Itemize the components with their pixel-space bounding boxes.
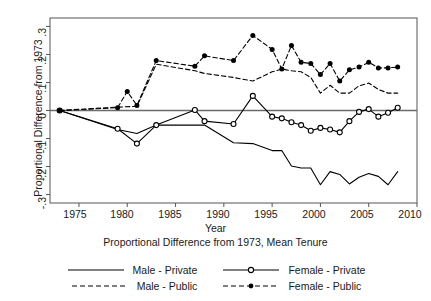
series-marker-3-20 xyxy=(376,65,381,70)
series-marker-1-3 xyxy=(154,123,159,128)
chart-figure: Proportional Difference from 1973 .3 .2 … xyxy=(0,0,431,301)
series-marker-3-0 xyxy=(57,108,62,113)
x-tick-2005: 2005 xyxy=(342,208,382,220)
series-marker-1-19 xyxy=(376,114,381,119)
series-marker-3-13 xyxy=(308,61,313,66)
legend-key-solid-open-marker xyxy=(221,264,281,276)
legend-label-female-private: Female - Private xyxy=(288,264,365,276)
series-marker-1-20 xyxy=(386,110,391,115)
legend-key-dashed-nomarker xyxy=(70,280,130,292)
series-marker-3-18 xyxy=(357,65,362,70)
series-marker-1-16 xyxy=(347,119,352,124)
series-marker-1-13 xyxy=(318,125,323,130)
legend-row-1: Male - Private Female - Private xyxy=(0,262,431,278)
legend-label-male-private: Male - Private xyxy=(133,264,198,276)
x-tick-1995: 1995 xyxy=(246,208,286,220)
x-tick-2010: 2010 xyxy=(390,208,430,220)
x-tick-1980: 1980 xyxy=(102,208,142,220)
series-marker-3-19 xyxy=(366,60,371,65)
series-marker-3-8 xyxy=(250,33,255,38)
series-marker-1-15 xyxy=(337,130,342,135)
series-marker-1-6 xyxy=(231,121,236,126)
x-tick-1985: 1985 xyxy=(150,208,190,220)
legend-label-male-public: Male - Public xyxy=(137,280,198,292)
series-marker-1-8 xyxy=(270,114,275,119)
x-tick-1990: 1990 xyxy=(198,208,238,220)
series-marker-1-18 xyxy=(366,107,371,112)
legend-item-female-public: Female - Public xyxy=(221,280,361,292)
series-marker-3-15 xyxy=(328,61,333,66)
series-marker-3-10 xyxy=(279,67,284,72)
x-axis-label: Year xyxy=(0,222,431,234)
series-marker-1-4 xyxy=(192,107,197,112)
series-marker-1-5 xyxy=(202,119,207,124)
plot-area xyxy=(0,0,431,301)
series-marker-1-14 xyxy=(328,127,333,132)
series-marker-3-9 xyxy=(270,47,275,52)
series-marker-3-2 xyxy=(125,89,130,94)
series-marker-3-1 xyxy=(115,105,120,110)
chart-subtitle: Proportional Difference from 1973, Mean … xyxy=(0,236,431,248)
x-tick-1975: 1975 xyxy=(55,208,95,220)
series-marker-1-2 xyxy=(134,141,139,146)
series-marker-1-7 xyxy=(250,93,255,98)
series-marker-3-21 xyxy=(386,65,391,70)
series-marker-3-22 xyxy=(395,65,400,70)
series-marker-3-3 xyxy=(134,103,139,108)
legend-label-female-public: Female - Public xyxy=(288,280,361,292)
series-marker-3-14 xyxy=(318,72,323,77)
series-marker-1-1 xyxy=(115,126,120,131)
series-marker-3-17 xyxy=(347,67,352,72)
series-marker-1-17 xyxy=(357,109,362,114)
series-marker-3-11 xyxy=(289,43,294,48)
legend-item-male-public: Male - Public xyxy=(70,280,198,292)
series-marker-3-6 xyxy=(202,53,207,58)
series-marker-1-9 xyxy=(279,116,284,121)
series-marker-1-10 xyxy=(289,120,294,125)
legend-key-solid-nomarker xyxy=(66,264,126,276)
series-marker-3-12 xyxy=(299,60,304,65)
x-tick-2000: 2000 xyxy=(294,208,334,220)
legend-row-2: Male - Public Female - Public xyxy=(0,278,431,294)
legend-key-dashed-filled-marker xyxy=(221,280,281,292)
series-marker-1-11 xyxy=(299,123,304,128)
legend-item-female-private: Female - Private xyxy=(221,264,365,276)
series-line-male-public xyxy=(60,64,398,110)
series-marker-3-7 xyxy=(231,58,236,63)
legend-item-male-private: Male - Private xyxy=(66,264,198,276)
series-line-female-public xyxy=(60,35,398,110)
series-marker-1-12 xyxy=(308,128,313,133)
series-marker-3-5 xyxy=(192,64,197,69)
series-marker-3-16 xyxy=(337,79,342,84)
chart-legend: Male - Private Female - Private Male - P… xyxy=(0,262,431,294)
series-marker-1-21 xyxy=(395,105,400,110)
series-marker-3-4 xyxy=(154,58,159,63)
